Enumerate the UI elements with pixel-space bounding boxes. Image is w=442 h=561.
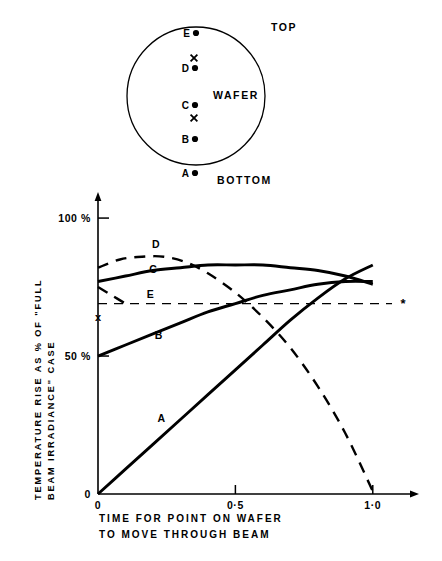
y-tick-label: 0 — [85, 488, 91, 500]
wafer-point-dot — [192, 136, 198, 142]
curve-label-E: E — [147, 288, 154, 300]
wafer-bottom-label: BOTTOM — [217, 174, 272, 186]
y-axis-cross-marker: x — [95, 311, 102, 323]
y-tick-label: 100 % — [58, 212, 91, 224]
wafer-point-cross — [191, 115, 198, 122]
wafer-point-dot — [192, 65, 198, 71]
x-axis-caption-line2: TO MOVE THROUGH BEAM — [99, 529, 270, 540]
wafer-point-group: EDCBA — [182, 28, 199, 179]
y-axis-caption-line1: TEMPERATURE RISE AS % OF "FULL — [33, 278, 43, 500]
x-axis-caption-line1: TIME FOR POINT ON WAFER — [99, 513, 283, 524]
curve-label-B: B — [155, 329, 163, 341]
wafer-point-label-D: D — [182, 63, 189, 74]
y-tick-label: 50 % — [65, 350, 91, 362]
wafer-point-label-A: A — [182, 168, 189, 179]
curve-label-A: A — [157, 412, 165, 424]
wafer-top-label: TOP — [271, 21, 297, 33]
curve-A — [98, 265, 373, 494]
x-axis-caption: TIME FOR POINT ON WAFER TO MOVE THROUGH … — [99, 513, 283, 540]
curve-B — [98, 281, 373, 356]
figure-root: EDCBA TOP WAFER BOTTOM 050 %100 % 00·51·… — [0, 0, 442, 561]
wafer-point-label-B: B — [182, 134, 189, 145]
wafer-point-label-C: C — [182, 100, 189, 111]
chart: 050 %100 % 00·51·0 * x ABCD E TIME FOR P… — [33, 192, 419, 540]
wafer-point-label-E: E — [183, 28, 190, 39]
x-tick-label: 0·5 — [227, 499, 244, 511]
x-axis-arrow — [410, 491, 419, 498]
wafer-point-cross — [191, 55, 198, 62]
x-tick-label: 0 — [95, 499, 101, 511]
wafer-diagram: EDCBA TOP WAFER BOTTOM — [127, 21, 297, 186]
data-curves-group — [98, 256, 373, 494]
figure-svg: EDCBA TOP WAFER BOTTOM 050 %100 % 00·51·… — [0, 0, 442, 561]
x-tick-label: 1·0 — [364, 499, 381, 511]
y-axis-caption-line2: BEAM IRRADIANCE" CASE — [46, 340, 56, 500]
wafer-point-dot — [193, 30, 199, 36]
wafer-point-dot — [192, 102, 198, 108]
reference-line-end-marker: * — [400, 296, 406, 311]
y-axis-arrow — [95, 192, 102, 201]
y-axis-caption: TEMPERATURE RISE AS % OF "FULL BEAM IRRA… — [33, 278, 56, 500]
curve-label-C: C — [149, 263, 157, 275]
wafer-label: WAFER — [213, 89, 259, 101]
curve-label-D: D — [152, 238, 160, 250]
curve-E-lower-stub — [98, 287, 125, 304]
wafer-point-dot — [192, 170, 198, 176]
x-tick-group: 00·51·0 — [95, 485, 382, 511]
